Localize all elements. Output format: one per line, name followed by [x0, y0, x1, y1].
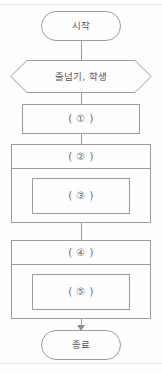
flow-node-start-label: 시작 — [72, 21, 90, 31]
flow-node-loop-1-header: ( ② ) — [12, 145, 150, 169]
connector-loop1-to-loop2 — [81, 223, 82, 240]
flow-node-loop-2-header-label: ( ④ ) — [68, 248, 94, 258]
flow-node-loop-2-body: ( ⑤ ) — [12, 265, 150, 318]
page-rule-top — [0, 4, 162, 5]
flow-node-loop-2-header: ( ④ ) — [12, 241, 150, 265]
flow-node-declaration: 줄넘기, 학생 — [10, 60, 152, 93]
flow-node-loop-1-inner: ( ③ ) — [32, 178, 130, 214]
flow-node-loop-1-inner-label: ( ③ ) — [68, 191, 94, 201]
page-rule-bottom — [0, 363, 162, 364]
flow-node-loop-1-body: ( ③ ) — [12, 169, 150, 222]
connector-process1-to-loop1 — [81, 134, 82, 144]
flow-node-loop-2-inner: ( ⑤ ) — [32, 274, 130, 310]
flow-node-loop-1-header-label: ( ② ) — [68, 152, 94, 162]
flow-node-start: 시작 — [41, 11, 121, 41]
flow-node-process-1: ( ① ) — [22, 104, 140, 134]
connector-start-to-declare — [81, 41, 82, 60]
flow-node-loop-2: ( ④ ) ( ⑤ ) — [11, 240, 151, 319]
flow-node-process-1-label: ( ① ) — [68, 114, 94, 124]
flow-node-declaration-label: 줄넘기, 학생 — [55, 72, 107, 82]
flow-node-end-label: 종료 — [72, 340, 90, 350]
flow-node-end: 종료 — [41, 330, 121, 360]
connector-declare-to-process1 — [81, 93, 82, 104]
flowchart-canvas: 시작 줄넘기, 학생 ( ① ) ( ② ) ( ③ ) ( ④ ) — [0, 0, 162, 373]
flow-node-loop-2-inner-label: ( ⑤ ) — [68, 287, 94, 297]
flow-node-loop-1: ( ② ) ( ③ ) — [11, 144, 151, 223]
